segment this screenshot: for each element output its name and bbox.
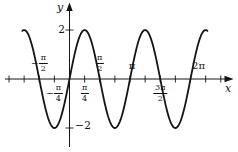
y-tick-label-neg-2: −2	[75, 120, 91, 131]
sine-graph-figure: y x 2 −2 −π2−π4π4π2π3π22π	[0, 0, 238, 152]
x-tick-label-2pi: 2π	[192, 61, 205, 71]
x-tick-text: π	[129, 61, 136, 71]
fraction-stack: π4	[54, 84, 62, 103]
fraction-stack: π2	[96, 54, 104, 73]
fraction-numerator: π	[96, 54, 104, 64]
x-tick-label-pi-over-4: π4	[80, 84, 88, 103]
plot-canvas	[0, 0, 238, 152]
fraction-numerator: π	[39, 54, 47, 64]
minus-sign: −	[31, 59, 39, 68]
fraction-stack: π2	[39, 54, 47, 73]
fraction-stack: 3π2	[154, 84, 167, 103]
x-tick-label-neg-pi-over-4: −π4	[46, 84, 62, 103]
fraction-numerator: π	[80, 84, 88, 94]
fraction-denominator: 2	[97, 64, 102, 73]
fraction-denominator: 2	[158, 94, 163, 103]
fraction-stack: π4	[80, 84, 88, 103]
x-tick-label-neg-pi-over-2: −π2	[31, 54, 47, 73]
x-tick-label-pi: π	[129, 61, 136, 71]
x-tick-label-3pi-over-2: 3π2	[154, 84, 167, 103]
y-axis-letter: y	[57, 2, 63, 13]
x-tick-text: 2π	[192, 61, 205, 71]
fraction-denominator: 4	[56, 94, 61, 103]
minus-sign: −	[46, 89, 54, 98]
y-tick-label-2: 2	[56, 24, 65, 35]
fraction-numerator: 3π	[154, 84, 167, 94]
fraction-denominator: 4	[82, 94, 87, 103]
fraction-numerator: π	[54, 84, 62, 94]
x-axis-letter: x	[225, 83, 231, 94]
x-tick-label-pi-over-2: π2	[96, 54, 104, 73]
fraction-denominator: 2	[41, 64, 46, 73]
